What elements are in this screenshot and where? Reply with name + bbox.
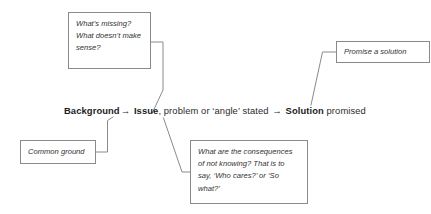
callout-whats-missing: What’s missing? What doesn’t make sense? <box>68 12 151 69</box>
connector-missing-to-issue <box>151 42 163 113</box>
diagram-canvas: What’s missing? What doesn’t make sense?… <box>0 0 431 214</box>
background-term: Background <box>64 105 120 116</box>
callout-common-ground: Common ground <box>20 140 96 164</box>
connector-promise-to-solution <box>311 52 336 105</box>
solution-term: Solution <box>286 105 324 116</box>
main-sentence: Background→ Issue, problem or ‘angle’ st… <box>64 104 366 117</box>
connector-common-ground-to-background <box>96 117 113 152</box>
callout-consequences: What are the consequences of not knowing… <box>190 140 308 204</box>
issue-description: , problem or ‘angle’ stated <box>158 105 271 116</box>
connector-issue-to-consequences <box>164 118 191 172</box>
callout-promise-a-solution: Promise a solution <box>336 41 430 63</box>
arrow-icon-1: → <box>120 105 131 116</box>
arrow-icon-2: → <box>271 105 282 116</box>
solution-description: promised <box>324 105 366 116</box>
issue-term: Issue <box>134 105 158 116</box>
